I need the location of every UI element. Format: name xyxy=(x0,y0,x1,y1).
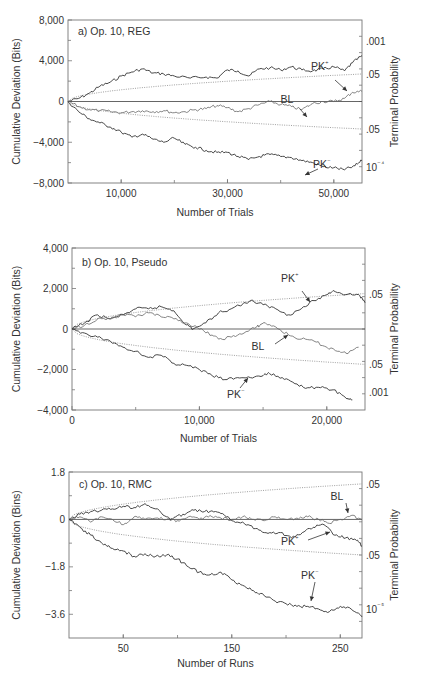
y-tick-label: 4,000 xyxy=(39,55,64,66)
plot-frame xyxy=(69,472,362,638)
series-pkplus xyxy=(72,291,365,330)
annotation-label: PK⁻ xyxy=(227,388,245,400)
y-tick-label: −8,000 xyxy=(33,178,64,189)
y-tick-label: 0 xyxy=(58,96,64,107)
x-axis-title: Number of Trials xyxy=(176,206,253,218)
x-tick-label: 50,000 xyxy=(319,188,350,199)
significance-envelope-lower xyxy=(69,519,362,555)
annotation-label: PK⁻ xyxy=(301,569,319,581)
series-bl xyxy=(68,90,362,113)
annotation-label: BL xyxy=(281,93,294,105)
y2-tick-label: .05 xyxy=(366,124,380,135)
y-tick-label: 0 xyxy=(62,324,68,335)
panel-title: b) Op. 10, Pseudo xyxy=(82,256,167,268)
annotation-label: BL xyxy=(252,340,265,352)
arrowhead-icon xyxy=(306,297,310,302)
y-tick-label: −4,000 xyxy=(33,137,64,148)
y2-tick-label: .05 xyxy=(366,69,380,80)
y2-axis-title: Terminal Probability xyxy=(388,55,400,147)
x-tick-label: 20,000 xyxy=(311,415,342,426)
annotation-label: PK⁺ xyxy=(281,535,299,547)
x-tick-label: 250 xyxy=(332,643,349,654)
y2-tick-label: .001 xyxy=(366,36,386,47)
y-axis-title: Cumulative Deviation (Bits) xyxy=(10,266,22,393)
y-tick-label: −1.8 xyxy=(45,561,65,572)
x-tick-label: 150 xyxy=(223,643,240,654)
y2-tick-label: .001 xyxy=(369,387,389,398)
y2-tick-label: .05 xyxy=(369,289,383,300)
y2-tick-label: 10⁻⁵ xyxy=(366,602,384,615)
arrowhead-icon xyxy=(243,378,248,383)
y-tick-label: 0 xyxy=(59,514,65,525)
annotation-label: PK⁺ xyxy=(281,272,299,284)
y-tick-label: −4,000 xyxy=(37,405,68,416)
y2-tick-label: 10⁻⁴ xyxy=(366,160,384,173)
annotation-label: BL xyxy=(331,490,344,502)
y-tick-label: −2,000 xyxy=(37,364,68,375)
y2-axis-title: Terminal Probability xyxy=(388,282,400,374)
y2-axis-title: Terminal Probability xyxy=(388,508,400,600)
x-tick-label: 10,000 xyxy=(184,415,215,426)
significance-envelope-lower xyxy=(68,102,362,130)
annotation-label: PK⁺ xyxy=(311,60,329,72)
y-tick-label: 8,000 xyxy=(39,15,64,26)
y2-tick-label: .05 xyxy=(369,359,383,370)
panel-title: a) Op. 10, REG xyxy=(78,25,150,37)
significance-envelope-lower xyxy=(72,329,365,364)
x-tick-label: 10,000 xyxy=(106,188,137,199)
y2-tick-label: .05 xyxy=(366,479,380,490)
panel-b: 4,0002,0000−2,000−4,000010,00020,000.05.… xyxy=(10,243,400,445)
y-tick-label: −3.6 xyxy=(45,609,65,620)
arrowhead-icon xyxy=(310,596,314,601)
x-axis-title: Number of Trials xyxy=(180,432,257,444)
series-pkplus xyxy=(69,504,362,547)
panel-a: 8,0004,0000−4,000−8,00010,00030,00050,00… xyxy=(10,15,400,219)
arrowhead-icon xyxy=(345,508,349,513)
y-axis-title: Cumulative Deviation (Bins) xyxy=(10,490,22,620)
significance-envelope-upper xyxy=(72,294,365,329)
panel-title: c) Op. 10, RMC xyxy=(79,478,152,490)
panel-c: 1.80−1.8−3.650150250.05.0510⁻⁵c) Op. 10,… xyxy=(10,467,400,670)
arrowhead-icon xyxy=(283,335,288,339)
x-tick-label: 50 xyxy=(118,643,130,654)
y-tick-label: 2,000 xyxy=(43,283,68,294)
x-tick-label: 30,000 xyxy=(212,188,243,199)
series-bl xyxy=(69,515,362,525)
figure: 8,0004,0000−4,000−8,00010,00030,00050,00… xyxy=(0,0,424,675)
y2-tick-label: .05 xyxy=(366,550,380,561)
y-axis-title: Cumulative Deviation (Bits) xyxy=(10,38,22,165)
x-axis-title: Number of Runs xyxy=(177,657,253,669)
x-tick-label: 0 xyxy=(69,415,75,426)
series-bl xyxy=(72,312,359,353)
y-tick-label: 4,000 xyxy=(43,243,68,254)
y-tick-label: 1.8 xyxy=(51,467,65,478)
